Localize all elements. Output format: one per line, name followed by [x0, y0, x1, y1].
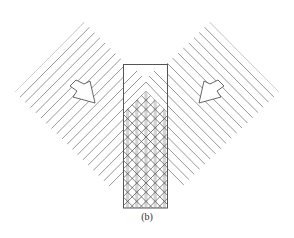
figure-caption: (b): [0, 211, 294, 222]
diffraction-diagram: [0, 0, 294, 238]
arrow-down-left-icon: [199, 80, 224, 103]
arrow-down-right-icon: [70, 80, 95, 103]
crosshatch-region: [110, 0, 185, 238]
